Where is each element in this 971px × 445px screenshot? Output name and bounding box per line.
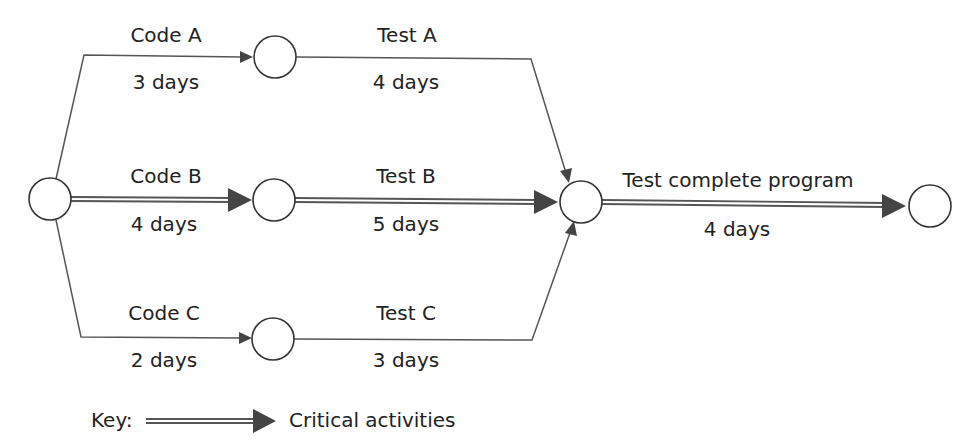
label-test-c-name: Test C <box>375 301 436 325</box>
label-code-b-name: Code B <box>130 164 201 188</box>
label-code-c-duration: 2 days <box>131 348 197 372</box>
arrowhead-icon <box>560 168 572 183</box>
edge-test-complete-critical <box>602 194 906 218</box>
critical-arrowhead-icon <box>882 194 906 218</box>
edge-test-b-critical <box>295 190 558 214</box>
node-after-code-c <box>252 318 294 360</box>
label-code-a-name: Code A <box>130 23 202 47</box>
legend: Key: Critical activities <box>91 408 455 433</box>
legend-key-label: Key: <box>91 408 133 432</box>
edge-code-b-critical <box>71 188 252 212</box>
label-code-c-name: Code C <box>128 301 200 325</box>
node-after-code-b <box>253 179 295 221</box>
critical-arrowhead-icon <box>534 190 558 214</box>
label-code-a-duration: 3 days <box>133 70 199 94</box>
node-merge <box>560 181 602 223</box>
edge-code-c <box>56 220 252 344</box>
critical-arrowhead-icon <box>228 188 252 212</box>
label-test-a-name: Test A <box>376 23 437 47</box>
label-test-complete-name: Test complete program <box>622 168 854 192</box>
node-start <box>29 178 71 220</box>
label-test-b-duration: 5 days <box>373 212 439 236</box>
label-code-b-duration: 4 days <box>131 212 197 236</box>
legend-critical-arrow-icon <box>146 409 276 433</box>
node-after-code-a <box>254 36 296 78</box>
node-end <box>909 185 951 227</box>
arrowhead-icon <box>239 332 252 344</box>
label-test-c-duration: 3 days <box>373 348 439 372</box>
label-test-b-name: Test B <box>375 164 435 188</box>
legend-critical-description: Critical activities <box>289 408 455 432</box>
activity-network-diagram: Code A 3 days Code B 4 days Code C 2 day… <box>0 0 971 445</box>
label-test-a-duration: 4 days <box>373 70 439 94</box>
arrowhead-icon <box>240 51 253 63</box>
label-test-complete-duration: 4 days <box>704 217 770 241</box>
arrowhead-icon <box>565 221 577 236</box>
